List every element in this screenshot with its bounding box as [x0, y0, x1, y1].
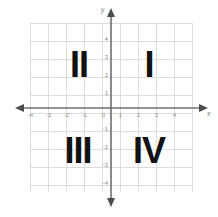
quadrant-label-1: I — [144, 47, 153, 83]
y-tick-label-1: 1 — [99, 90, 108, 96]
x-axis-arrow-left — [15, 104, 24, 112]
coordinate-plane: -4 -3 -2 -1 0 1 2 3 4 4 3 2 1 -1 -2 -3 -… — [0, 0, 218, 217]
x-tick-label-0: 0 — [98, 112, 109, 118]
x-tick-label-4: 4 — [169, 112, 180, 118]
y-tick-label-3: 3 — [99, 54, 108, 60]
x-tick-label--3: -3 — [42, 112, 55, 118]
x-axis-label: x — [207, 111, 210, 118]
y-tick-label--1: -1 — [97, 126, 108, 132]
coordinate-plane-graphic — [0, 0, 218, 217]
x-tick-label--1: -1 — [78, 112, 91, 118]
x-tick-label-2: 2 — [133, 112, 144, 118]
x-tick-label--2: -2 — [60, 112, 73, 118]
quadrant-label-2: II — [70, 47, 88, 83]
y-axis-arrow-down — [107, 198, 115, 207]
y-axis-arrow-up — [107, 8, 115, 17]
x-tick-label-3: 3 — [151, 112, 162, 118]
y-tick-label--4: -4 — [97, 180, 108, 186]
y-tick-label--2: -2 — [97, 144, 108, 150]
y-axis-label: y — [101, 7, 104, 14]
x-tick-label-1: 1 — [115, 112, 126, 118]
y-tick-label--3: -3 — [97, 162, 108, 168]
quadrant-label-4: IV — [133, 133, 165, 169]
y-tick-label-2: 2 — [99, 72, 108, 78]
y-tick-label-4: 4 — [99, 36, 108, 42]
quadrant-label-3: III — [64, 133, 91, 169]
x-tick-label--4: -4 — [24, 112, 37, 118]
